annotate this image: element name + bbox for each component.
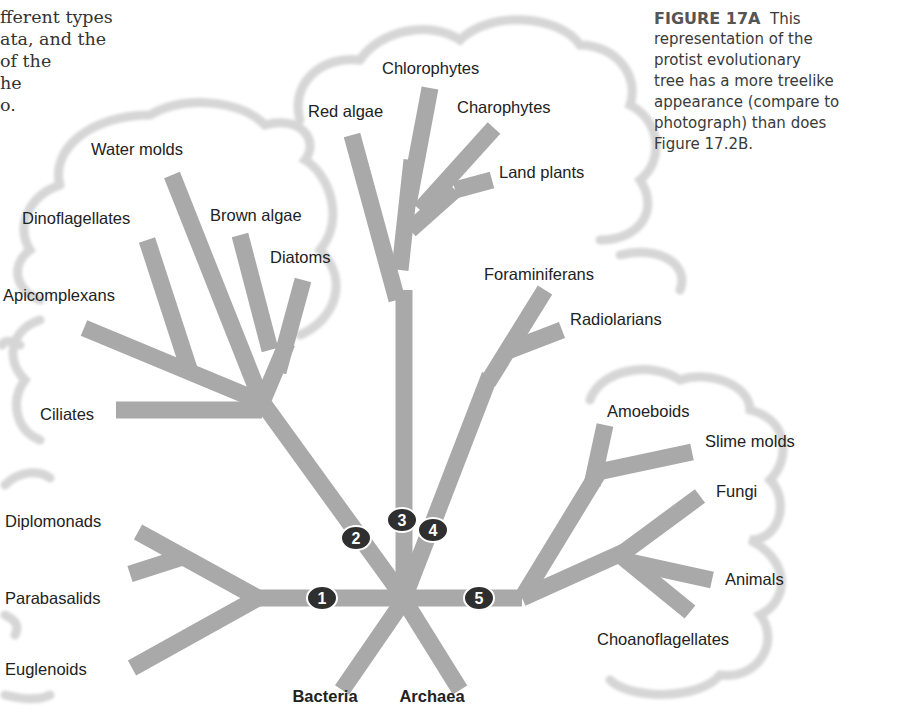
branch-rhizaria-stem xyxy=(404,375,490,598)
protist-tree-figure: DiplomonadsParabasalidsEuglenoidsCiliate… xyxy=(0,0,903,715)
marker-number: 3 xyxy=(398,512,407,529)
marker-3: 3 xyxy=(387,508,417,532)
caption-line: photograph) than does xyxy=(654,113,903,134)
taxon-label-slime-molds: Slime molds xyxy=(705,432,795,450)
taxon-label-diatoms: Diatoms xyxy=(270,248,331,266)
taxon-label-amoeboids: Amoeboids xyxy=(607,402,690,420)
branch-diatoms xyxy=(278,280,303,372)
root-label-archaea: Archaea xyxy=(399,687,465,705)
body-text-fragment: fferent types ata, and the of the he o. xyxy=(0,6,270,116)
marker-2: 2 xyxy=(341,526,371,550)
caption-line: tree has a more treelike xyxy=(654,71,903,92)
root-labels: BacteriaArchaea xyxy=(292,687,465,705)
marker-number: 1 xyxy=(318,590,327,607)
marker-5: 5 xyxy=(464,586,494,610)
caption-line: FIGURE 17A This xyxy=(654,8,903,29)
taxon-label-parabasalids: Parabasalids xyxy=(5,589,100,607)
branch-archaea xyxy=(404,600,460,690)
branch-parabasalids xyxy=(130,557,183,574)
taxon-label-land-plants: Land plants xyxy=(499,163,584,181)
branch-brown-algae xyxy=(240,235,270,350)
body-text-line: o. xyxy=(0,94,270,116)
branch-chromalveolata-stem xyxy=(262,402,404,598)
taxon-label-animals: Animals xyxy=(725,570,784,588)
branch-land-plants xyxy=(455,180,492,190)
taxon-label-euglenoids: Euglenoids xyxy=(5,660,87,678)
taxon-label-fungi: Fungi xyxy=(716,482,757,500)
caption-line: representation of the xyxy=(654,29,903,50)
marker-number: 2 xyxy=(352,530,361,547)
caption-text: This xyxy=(770,10,801,28)
caption-line: protist evolutionary xyxy=(654,50,903,71)
branch-euglenoids xyxy=(132,598,258,668)
taxon-label-water-molds: Water molds xyxy=(91,140,183,158)
taxon-label-brown-algae: Brown algae xyxy=(210,206,302,224)
branch-slime-molds xyxy=(598,452,692,472)
taxon-label-diplomonads: Diplomonads xyxy=(5,512,101,530)
marker-1: 1 xyxy=(307,586,337,610)
marker-4: 4 xyxy=(418,518,448,542)
taxon-label-chlorophytes: Chlorophytes xyxy=(382,59,479,77)
branch-fungi xyxy=(620,496,700,555)
taxon-label-radiolarians: Radiolarians xyxy=(570,310,662,328)
body-text-line: of the xyxy=(0,50,270,72)
marker-number: 5 xyxy=(475,590,484,607)
body-text-line: he xyxy=(0,72,270,94)
taxon-label-foraminiferans: Foraminiferans xyxy=(484,265,594,283)
body-text-line: ata, and the xyxy=(0,28,270,50)
figure-label: FIGURE 17A xyxy=(654,9,760,28)
marker-number: 4 xyxy=(429,522,438,539)
branch-bacteria xyxy=(342,600,404,690)
taxon-label-charophytes: Charophytes xyxy=(457,98,551,116)
taxon-label-apicomplexans: Apicomplexans xyxy=(3,286,115,304)
branch-red-algae xyxy=(352,135,397,300)
caption-line: Figure 17.2B. xyxy=(654,134,903,155)
taxon-label-ciliates: Ciliates xyxy=(40,405,94,423)
taxon-label-choanoflagellates: Choanoflagellates xyxy=(597,630,729,648)
root-label-bacteria: Bacteria xyxy=(292,687,358,705)
taxon-label-dinoflagellates: Dinoflagellates xyxy=(22,209,130,227)
branch-chlorophytes xyxy=(408,88,430,205)
figure-caption: FIGURE 17A This representation of the pr… xyxy=(654,8,903,155)
body-text-line: fferent types xyxy=(0,6,270,28)
caption-line: appearance (compare to xyxy=(654,92,903,113)
taxon-label-red-algae: Red algae xyxy=(308,102,383,120)
tree-branches xyxy=(84,88,712,690)
